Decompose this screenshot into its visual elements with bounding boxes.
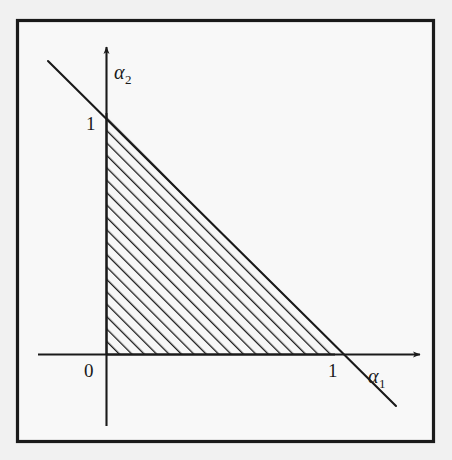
x-axis-label-alpha1: α1: [368, 366, 386, 390]
x-axis-tick-label-1: 1: [328, 361, 338, 380]
x-axis-label-symbol: α: [368, 365, 379, 387]
x-axis-label-subscript: 1: [379, 376, 386, 391]
y-axis-label-subscript: 2: [125, 72, 132, 87]
figure-container: 1 0 1 α2 α1: [0, 0, 452, 460]
y-axis-label-symbol: α: [114, 61, 125, 83]
alpha-simplex-diagram: [0, 0, 452, 460]
y-axis-tick-label-1: 1: [86, 114, 96, 133]
y-axis-label-alpha2: α2: [114, 62, 132, 86]
origin-tick-label-0: 0: [84, 361, 94, 380]
